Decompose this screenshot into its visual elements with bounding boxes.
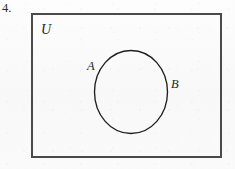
venn-diagram-figure: 4. U A B [0,0,235,169]
universal-set-label: U [41,22,51,37]
problem-number: 4. [2,2,12,15]
label-b: B [171,78,179,91]
set-circle [90,46,172,138]
label-a: A [87,60,95,73]
set-circle-outline [95,51,168,134]
